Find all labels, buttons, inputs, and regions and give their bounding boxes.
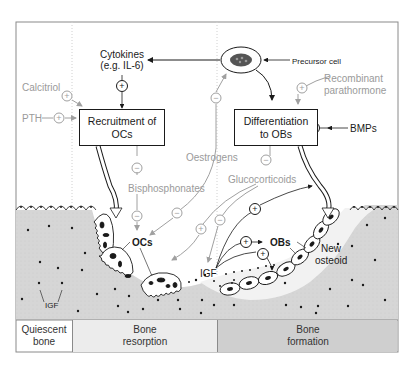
bone-remodelling-diagram: + + + − − − − − + − + + + + + Cytokines … [0, 0, 420, 368]
svg-text:+: + [243, 237, 248, 247]
diagram-canvas: + + + − − − − − + − + + + + + [0, 0, 420, 368]
differentiation-line1: Differentiation [244, 115, 309, 128]
recombinant-line1: Recombinant [324, 73, 386, 85]
pth-label: PTH [22, 113, 42, 124]
glucocorticoids-label: Glucocorticoids [228, 174, 296, 185]
new-osteoid-line2: osteoid [315, 255, 347, 267]
bmps-label: BMPs [350, 123, 377, 134]
phase-quiescent-line2: bone [21, 336, 66, 348]
recombinant-parathormone-label: Recombinant parathormone [324, 73, 386, 97]
new-osteoid-label: New osteoid [315, 243, 347, 267]
svg-text:+: + [252, 204, 257, 214]
phase-quiescent-line1: Quiescent [21, 324, 66, 336]
phase-quiescent-bone: Quiescent bone [16, 320, 73, 352]
differentiation-line2: to OBs [244, 128, 309, 141]
precursor-cell-label: Precursor cell [292, 56, 341, 67]
recruitment-line1: Recruitment of [88, 115, 156, 128]
phase-bone-resorption: Bone resorption [73, 320, 218, 352]
phase-formation-line2: formation [287, 336, 329, 348]
svg-text:−: − [213, 93, 218, 103]
recruitment-of-ocs-box: Recruitment of OCs [79, 109, 165, 146]
recruitment-line2: OCs [88, 128, 156, 141]
svg-text:−: − [134, 163, 139, 173]
svg-text:+: + [260, 249, 265, 259]
recombinant-line2: parathormone [324, 85, 386, 97]
igf-left-label: IGF [45, 300, 58, 311]
svg-text:+: + [56, 113, 61, 123]
cytokines-label: Cytokines (e.g. IL-6) [96, 49, 148, 71]
igf-center-label: IGF [200, 268, 217, 279]
svg-text:+: + [119, 81, 124, 91]
svg-text:+: + [64, 91, 69, 101]
precursor-cell-icon [221, 47, 261, 73]
phase-resorption-line1: Bone [123, 324, 167, 336]
phase-resorption-line2: resorption [123, 336, 167, 348]
bisphosphonates-label: Bisphosphonates [128, 183, 205, 194]
svg-text:+: + [299, 83, 304, 93]
cytokines-line1: Cytokines [96, 49, 148, 60]
svg-text:+: + [198, 224, 203, 234]
svg-text:−: − [174, 208, 179, 218]
phase-formation-line1: Bone [287, 324, 329, 336]
svg-text:−: − [263, 155, 268, 165]
obs-label: OBs [270, 237, 291, 248]
phase-bone-formation: Bone formation [218, 320, 398, 352]
differentiation-to-obs-box: Differentiation to OBs [234, 109, 318, 146]
svg-text:−: − [134, 211, 139, 221]
oestrogens-label: Oestrogens [186, 152, 238, 163]
ocs-label: OCs [132, 237, 153, 248]
svg-text:−: − [217, 215, 222, 225]
calcitriol-label: Calcitriol [22, 82, 60, 93]
new-osteoid-line1: New [315, 243, 347, 255]
cytokines-line2: (e.g. IL-6) [96, 60, 148, 71]
